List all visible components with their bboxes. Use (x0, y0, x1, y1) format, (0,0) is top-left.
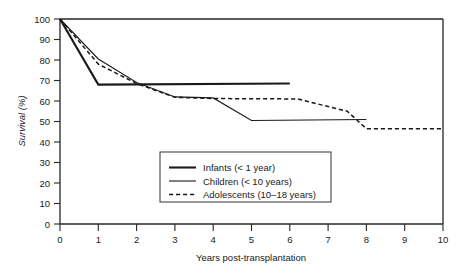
y-tick-label-30: 30 (39, 157, 50, 168)
x-tick-label-10: 10 (438, 234, 449, 245)
series-line-infants (60, 19, 290, 85)
chart-legend: Infants (< 1 year) Children (< 10 years)… (160, 152, 331, 202)
x-tick-label-9: 9 (402, 234, 407, 245)
y-tick-label-40: 40 (39, 137, 50, 148)
chart-canvas: 100 90 80 70 60 50 40 30 20 10 0 0 (0, 0, 467, 270)
x-tick-label-1: 1 (96, 234, 101, 245)
x-tick-label-6: 6 (287, 234, 292, 245)
x-tick-label-7: 7 (325, 234, 330, 245)
y-tick-label-0: 0 (45, 219, 50, 230)
y-tick-label-80: 80 (39, 55, 50, 66)
survival-chart-figure: 100 90 80 70 60 50 40 30 20 10 0 0 (0, 0, 467, 270)
y-tick-label-50: 50 (39, 116, 50, 127)
x-axis-title: Years post-transplantation (196, 252, 306, 263)
y-tick-label-10: 10 (39, 198, 50, 209)
x-tick-label-4: 4 (211, 234, 216, 245)
x-tick-label-8: 8 (364, 234, 369, 245)
x-tick-label-3: 3 (172, 234, 177, 245)
y-tick-label-60: 60 (39, 96, 50, 107)
y-tick-label-20: 20 (39, 178, 50, 189)
legend-label-infants: Infants (< 1 year) (203, 162, 275, 173)
x-tick-label-2: 2 (134, 234, 139, 245)
legend-label-adolescents: Adolescents (10–18 years) (203, 189, 316, 200)
series-line-adolescents (60, 19, 443, 129)
y-tick-label-70: 70 (39, 75, 50, 86)
y-tick-label-90: 90 (39, 34, 50, 45)
data-series-group (60, 19, 443, 129)
y-axis-ticks: 100 90 80 70 60 50 40 30 20 10 0 (34, 14, 60, 230)
x-tick-label-0: 0 (57, 234, 62, 245)
x-tick-label-5: 5 (249, 234, 254, 245)
y-axis-title: Survival (%) (16, 95, 27, 146)
x-axis-ticks: 0 1 2 3 4 5 6 7 8 9 10 (57, 224, 448, 245)
y-tick-label-100: 100 (34, 14, 50, 25)
legend-label-children: Children (< 10 years) (203, 176, 292, 187)
